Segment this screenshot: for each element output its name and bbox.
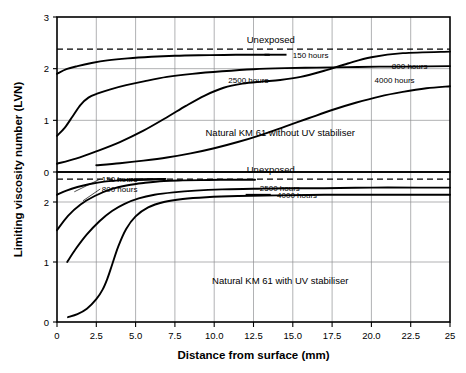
x-axis-tick-label: 22.5 xyxy=(401,330,420,341)
y-axis-title: Limiting viscosity number (LVN) xyxy=(12,82,24,258)
x-axis-tick-label: 7.5 xyxy=(168,330,181,341)
panel-annotation: Natural KM 61 with UV stabiliser xyxy=(212,275,348,286)
y-axis-tick-label: 3 xyxy=(44,12,49,23)
panel-annotation: Natural KM 61 without UV stabiliser xyxy=(206,127,355,138)
unexposed-label: Unexposed xyxy=(247,34,295,45)
x-axis-tick-label: 25 xyxy=(445,330,456,341)
series-label-800-hours: 800 hours xyxy=(102,185,138,194)
x-axis-tick-label: 17.5 xyxy=(323,330,342,341)
x-axis-tick-label: 2.5 xyxy=(90,330,103,341)
series-label-4000-hours: 4000 hours xyxy=(375,76,415,85)
y-axis-tick-label: 0 xyxy=(44,317,49,328)
series-label-800-hours: 800 hours xyxy=(392,62,428,71)
y-axis-tick-label: 1 xyxy=(44,115,49,126)
series-label-2500-hours: 2500 hours xyxy=(228,76,268,85)
y-axis-tick-label: 2 xyxy=(44,197,49,208)
x-axis-tick-label: 20.0 xyxy=(362,330,381,341)
x-axis-tick-label: 15.0 xyxy=(284,330,303,341)
x-axis-tick-label: 12.5 xyxy=(244,330,263,341)
chart-figure: 0123UnexposedNatural KM 61 without UV st… xyxy=(0,0,466,373)
x-axis-title: Distance from surface (mm) xyxy=(177,349,329,361)
y-axis-tick-label: 2 xyxy=(44,63,49,74)
x-axis-tick-label: 0 xyxy=(54,330,59,341)
series-tail-150-hours xyxy=(129,179,165,180)
x-axis-tick-label: 10.0 xyxy=(205,330,224,341)
y-axis-tick-label: 1 xyxy=(44,257,49,268)
series-label-150-hours: 150 hours xyxy=(293,51,329,60)
y-axis-tick-label: 0 xyxy=(44,167,49,178)
unexposed-label: Unexposed xyxy=(247,164,295,175)
x-axis-tick-label: 5.0 xyxy=(129,330,142,341)
series-label-4000-hours: 4000 hours xyxy=(277,191,317,200)
